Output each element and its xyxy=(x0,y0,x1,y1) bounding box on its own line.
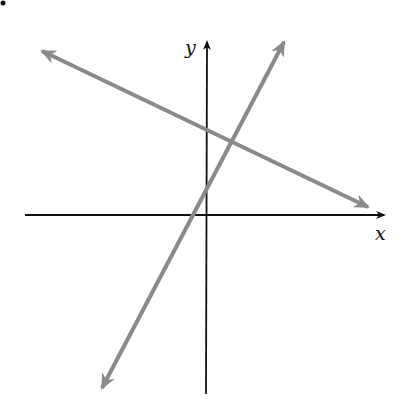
x-axis-label: x xyxy=(375,222,386,244)
bullet-dot xyxy=(1,1,6,6)
negative-slope-line xyxy=(42,51,368,207)
y-axis xyxy=(206,42,207,394)
coordinate-plane: x y xyxy=(0,0,406,399)
y-axis-label: y xyxy=(184,36,196,58)
